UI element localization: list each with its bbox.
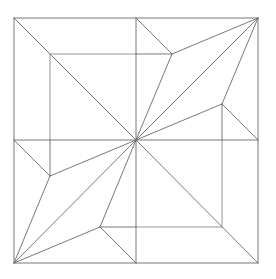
crease-pattern-diagram: [0, 0, 276, 279]
crease-lines: [14, 18, 258, 263]
crease-line-bl-kite-a-left: [14, 140, 50, 176]
crease-line-bl-kite-b-bottom: [100, 227, 136, 263]
crease-line-diag-tl-center: [14, 18, 136, 140]
crease-line-tr-kite-a-top: [136, 18, 172, 54]
crease-line-diag-center-br: [136, 140, 258, 263]
crease-line-tr-kite-b-right: [222, 104, 258, 140]
